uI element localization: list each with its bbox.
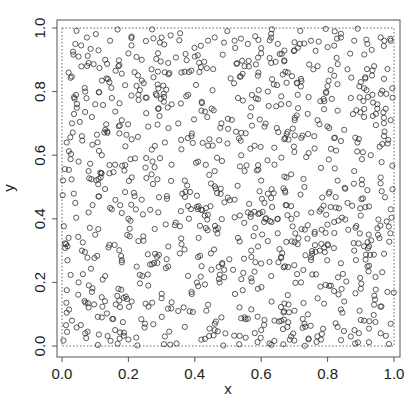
data-point: [303, 253, 308, 258]
data-point: [356, 331, 361, 336]
data-point: [166, 60, 171, 65]
data-point: [174, 341, 179, 346]
data-point: [76, 159, 81, 164]
data-point: [285, 293, 290, 298]
data-point: [218, 186, 223, 191]
data-point: [390, 187, 395, 192]
data-point: [339, 286, 344, 291]
data-point: [113, 109, 118, 114]
data-point: [120, 320, 125, 325]
data-point: [144, 155, 149, 160]
data-point: [265, 89, 270, 94]
data-point: [338, 261, 343, 266]
data-point: [312, 134, 317, 139]
data-point: [331, 246, 336, 251]
data-point: [362, 52, 367, 57]
data-point: [348, 95, 353, 100]
data-point: [76, 234, 81, 239]
data-point: [145, 272, 150, 277]
data-point: [68, 75, 73, 80]
data-point: [352, 248, 357, 253]
data-point: [208, 204, 213, 209]
data-point: [115, 27, 120, 32]
data-point: [216, 264, 221, 269]
data-point: [319, 241, 324, 246]
data-point: [222, 267, 227, 272]
data-point: [313, 272, 318, 277]
data-point: [176, 121, 181, 126]
data-point: [371, 312, 376, 317]
data-point: [338, 31, 343, 36]
data-point: [356, 137, 361, 142]
data-point: [279, 155, 284, 160]
data-point: [95, 140, 100, 145]
data-point: [162, 140, 167, 145]
data-point: [312, 146, 317, 151]
data-point: [192, 45, 197, 50]
data-point: [355, 26, 360, 31]
data-point: [285, 213, 290, 218]
data-point: [64, 300, 69, 305]
data-point: [76, 280, 81, 285]
data-point: [74, 105, 79, 110]
data-point: [345, 67, 350, 72]
data-point: [85, 53, 90, 58]
data-point: [308, 38, 313, 43]
y-tick-label: 0.8: [31, 81, 48, 102]
data-point: [198, 274, 203, 279]
data-point: [353, 135, 358, 140]
data-point: [197, 223, 202, 228]
data-point: [259, 196, 264, 201]
x-axis: 0.00.20.40.60.81.0: [52, 357, 405, 382]
data-point: [90, 142, 95, 147]
data-point: [367, 263, 372, 268]
data-point: [323, 26, 328, 31]
data-point: [247, 201, 252, 206]
data-point: [76, 54, 81, 59]
data-point: [108, 38, 113, 43]
data-point: [269, 299, 274, 304]
data-point: [151, 36, 156, 41]
data-point: [296, 236, 301, 241]
data-point: [113, 162, 118, 167]
data-point: [320, 195, 325, 200]
data-point: [231, 81, 236, 86]
data-point: [126, 337, 131, 342]
data-point: [235, 183, 240, 188]
data-point: [126, 304, 131, 309]
data-point: [186, 273, 191, 278]
data-point: [107, 162, 112, 167]
data-point: [249, 105, 254, 110]
data-point: [65, 258, 70, 263]
data-point: [210, 88, 215, 93]
data-point: [325, 45, 330, 50]
data-point: [311, 67, 316, 72]
data-point: [113, 197, 118, 202]
data-point: [157, 113, 162, 118]
data-point: [143, 38, 148, 43]
data-point: [355, 140, 360, 145]
data-point: [338, 307, 343, 312]
data-point: [242, 169, 247, 174]
unit-square-boundary: [62, 28, 394, 346]
data-point: [272, 338, 277, 343]
data-point: [126, 122, 131, 127]
data-point: [117, 101, 122, 106]
data-point: [253, 225, 258, 230]
data-point: [239, 153, 244, 158]
data-point: [319, 227, 324, 232]
data-point: [122, 168, 127, 173]
data-point: [301, 300, 306, 305]
data-point: [381, 121, 386, 126]
data-point: [249, 123, 254, 128]
data-point: [298, 280, 303, 285]
data-point: [212, 169, 217, 174]
data-point: [262, 322, 267, 327]
data-point: [325, 84, 330, 89]
data-point: [270, 77, 275, 82]
data-point: [243, 335, 248, 340]
data-point: [212, 35, 217, 40]
data-point: [220, 262, 225, 267]
data-point: [266, 103, 271, 108]
data-point: [363, 257, 368, 262]
